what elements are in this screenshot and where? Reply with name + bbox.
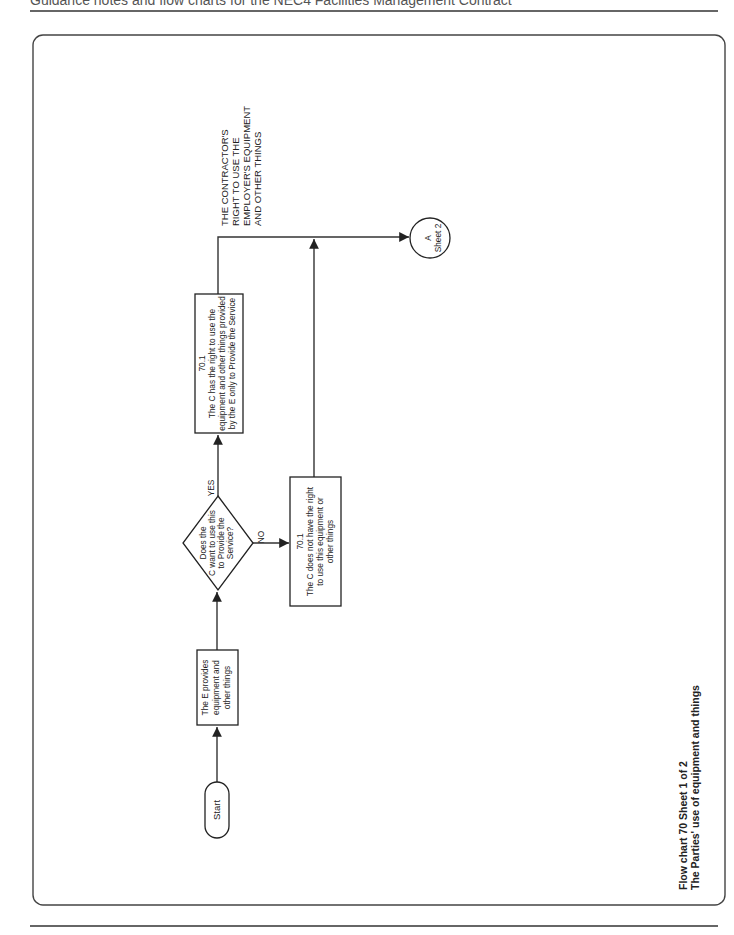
section-heading: THE CONTRACTOR'S RIGHT TO USE THE EMPLOY… [219, 106, 263, 226]
no-label: NO [256, 530, 266, 543]
box-text-line: The C has the right to use the [207, 308, 217, 418]
has-right-box: 70.1 The C has the right to use the equi… [195, 294, 243, 433]
no-right-box: 70.1 The C does not have the right to us… [290, 477, 341, 606]
connector-letter: A [423, 235, 433, 241]
heading-line: THE CONTRACTOR'S [219, 129, 230, 226]
clause-number: 70.1 [295, 533, 305, 550]
box-text-line: other things [222, 666, 232, 709]
employer-provides-box: The E provides equipment and other thing… [197, 650, 238, 725]
decision-text-line: Service? [225, 526, 235, 559]
connector-target: Sheet 2 [433, 223, 443, 252]
start-label: Start [211, 800, 222, 820]
start-terminator: Start [205, 782, 229, 838]
heading-line: RIGHT TO USE THE [230, 137, 241, 226]
box-text-line: by the E only to Provide the Service [227, 297, 237, 429]
heading-line: AND OTHER THINGS [252, 132, 263, 226]
clause-number: 70.1 [197, 355, 207, 372]
decision-diamond: Does the C want to use this to Provide t… [183, 496, 253, 590]
heading-line: EMPLOYER'S EQUIPMENT [241, 106, 252, 226]
flowchart: Start The E provides equipment and other… [0, 0, 734, 935]
box-text-line: The C does not have the right [305, 486, 315, 596]
chart-title: Flow chart 70 Sheet 1 of 2 The Parties' … [677, 685, 701, 890]
yes-label: YES [206, 479, 216, 496]
box-text-line: equipment and [211, 660, 221, 715]
box-text-line: equipment and other things provided [217, 296, 227, 431]
box-text-line: The E provides [200, 660, 210, 716]
chart-title-line1: Flow chart 70 Sheet 1 of 2 [677, 761, 689, 890]
chart-title-line2: The Parties' use of equipment and things [689, 685, 701, 890]
box-text-line: to use this equipment or [315, 497, 325, 586]
chart-frame [33, 35, 725, 905]
box-text-line: other things [325, 520, 335, 563]
connector-sheet-2: A Sheet 2 [410, 218, 450, 258]
